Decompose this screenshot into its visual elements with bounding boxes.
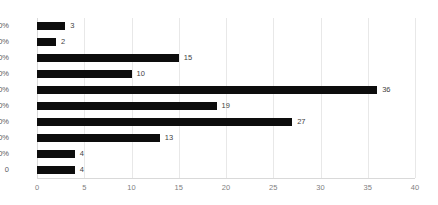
category-label: 50% bbox=[0, 82, 9, 98]
bar bbox=[37, 166, 75, 174]
bar-value-label: 3 bbox=[70, 19, 74, 33]
bar-value-label: 10 bbox=[137, 67, 145, 81]
bar-row: 70%15 bbox=[37, 50, 415, 66]
category-label: 20% bbox=[0, 130, 9, 146]
bar-row: 60%10 bbox=[37, 66, 415, 82]
x-tick-label: 40 bbox=[400, 183, 430, 192]
bar-row: 30%27 bbox=[37, 114, 415, 130]
bar-row: 20%13 bbox=[37, 130, 415, 146]
category-label: 90% bbox=[0, 18, 9, 34]
bar-row: 80%2 bbox=[37, 34, 415, 50]
category-label: 60% bbox=[0, 66, 9, 82]
bar-row: 90%3 bbox=[37, 18, 415, 34]
bar bbox=[37, 70, 132, 78]
bar-value-label: 15 bbox=[184, 51, 192, 65]
bar-value-label: 4 bbox=[80, 163, 84, 177]
category-label: 40% bbox=[0, 98, 9, 114]
bar bbox=[37, 134, 160, 142]
x-tick-label: 20 bbox=[211, 183, 241, 192]
category-label: 70% bbox=[0, 50, 9, 66]
bar-row: 40%19 bbox=[37, 98, 415, 114]
category-label: 30% bbox=[0, 114, 9, 130]
x-tick-label: 15 bbox=[164, 183, 194, 192]
x-tick-label: 0 bbox=[22, 183, 52, 192]
x-tick-label: 25 bbox=[258, 183, 288, 192]
bar-chart: 90%380%270%1560%1050%3640%1930%2720%1310… bbox=[0, 0, 438, 205]
category-label: 10% bbox=[0, 146, 9, 162]
x-tick-label: 35 bbox=[353, 183, 383, 192]
category-label: 0 bbox=[0, 162, 9, 178]
bar-row: 50%36 bbox=[37, 82, 415, 98]
x-tick-label: 5 bbox=[69, 183, 99, 192]
bar bbox=[37, 150, 75, 158]
bar bbox=[37, 54, 179, 62]
bar-value-label: 4 bbox=[80, 147, 84, 161]
bar-row: 10%4 bbox=[37, 146, 415, 162]
plot-area: 90%380%270%1560%1050%3640%1930%2720%1310… bbox=[37, 18, 415, 178]
x-tick-label: 30 bbox=[306, 183, 336, 192]
bar bbox=[37, 118, 292, 126]
bar-value-label: 2 bbox=[61, 35, 65, 49]
bar-value-label: 13 bbox=[165, 131, 173, 145]
x-axis-line bbox=[37, 178, 415, 179]
gridline-40 bbox=[415, 18, 416, 178]
bar bbox=[37, 22, 65, 30]
bar-value-label: 27 bbox=[297, 115, 305, 129]
bar bbox=[37, 102, 217, 110]
bar-value-label: 19 bbox=[222, 99, 230, 113]
bar bbox=[37, 86, 377, 94]
bar bbox=[37, 38, 56, 46]
x-tick-label: 10 bbox=[117, 183, 147, 192]
bar-value-label: 36 bbox=[382, 83, 390, 97]
category-label: 80% bbox=[0, 34, 9, 50]
bar-row: 04 bbox=[37, 162, 415, 178]
